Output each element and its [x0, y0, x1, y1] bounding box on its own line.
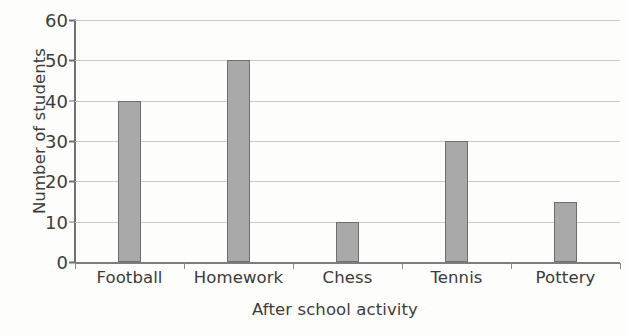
x-tick-label: Homework — [194, 268, 283, 287]
y-tick-label: 50 — [45, 50, 68, 71]
y-axis-ticks: 0102030405060 — [0, 0, 68, 335]
y-tick-label: 20 — [45, 171, 68, 192]
x-tick-mark — [75, 263, 76, 269]
gridline — [75, 20, 620, 21]
bar — [227, 60, 250, 262]
gridline — [75, 141, 620, 142]
x-tick-mark — [184, 263, 185, 269]
y-tick-label: 30 — [45, 131, 68, 152]
x-tick-mark — [402, 263, 403, 269]
gridline — [75, 181, 620, 182]
y-tick-label: 10 — [45, 211, 68, 232]
gridline — [75, 60, 620, 61]
bar-chart: Number of students 0102030405060 Footbal… — [0, 0, 627, 335]
plot-area — [75, 20, 620, 262]
bar — [336, 222, 359, 262]
x-axis-line — [75, 262, 620, 264]
x-axis-title: After school activity — [75, 300, 595, 319]
x-tick-label: Pottery — [536, 268, 596, 287]
bar — [118, 101, 141, 262]
y-tick-label: 0 — [57, 252, 68, 273]
x-tick-mark — [511, 263, 512, 269]
x-tick-label: Tennis — [430, 268, 482, 287]
x-tick-mark — [620, 263, 621, 269]
bar — [554, 202, 577, 263]
x-tick-mark — [293, 263, 294, 269]
y-tick-label: 60 — [45, 10, 68, 31]
bar — [445, 141, 468, 262]
y-tick-label: 40 — [45, 90, 68, 111]
gridline — [75, 101, 620, 102]
x-tick-label: Chess — [323, 268, 373, 287]
x-tick-label: Football — [96, 268, 162, 287]
